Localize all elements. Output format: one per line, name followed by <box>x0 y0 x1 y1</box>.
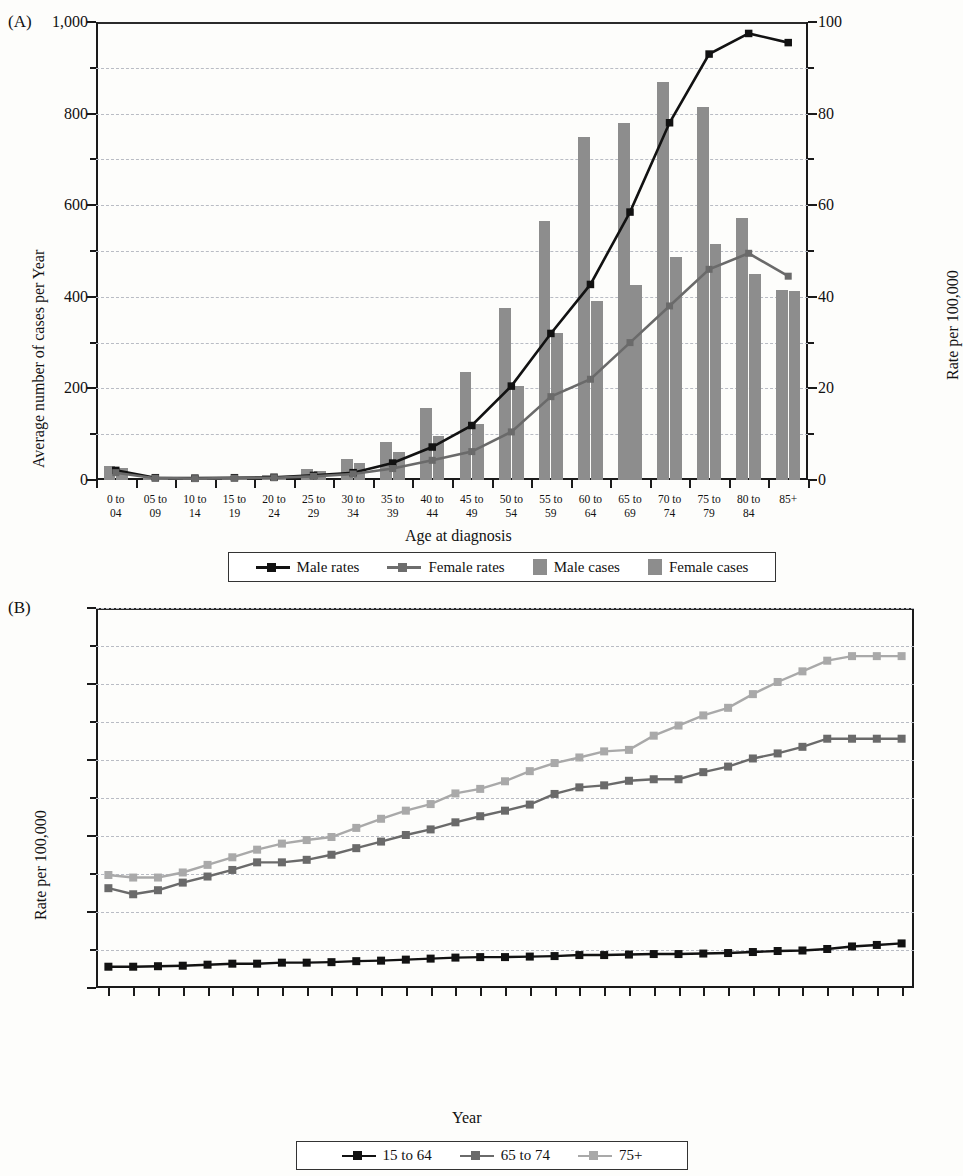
x-tick <box>902 988 904 996</box>
panel-b-y-title: Rate per 100,000 <box>32 810 50 920</box>
x-tick <box>492 480 494 488</box>
y-right-ticklabel: 0 <box>818 471 826 489</box>
y-tick <box>90 873 96 875</box>
x-ticklabel: 75 to79 <box>697 492 720 521</box>
x-tick <box>175 480 177 488</box>
panel-b-tag: (B) <box>8 598 31 618</box>
y-tick-left <box>87 21 96 23</box>
x-tick <box>571 480 573 488</box>
y-tick <box>90 721 96 723</box>
panel-b-plot-area <box>96 608 914 988</box>
x-ticklabel: 70 to74 <box>658 492 681 521</box>
x-tick <box>555 988 557 996</box>
x-ticklabel: 50 to54 <box>500 492 523 521</box>
y-tick-right <box>808 67 814 69</box>
x-tick <box>768 480 770 488</box>
y-left-ticklabel: 0 <box>26 471 88 489</box>
panel-b-legend: 15 to 6465 to 7475+ <box>296 1141 688 1170</box>
x-ticklabel: 20 to24 <box>262 492 285 521</box>
x-tick <box>381 988 383 996</box>
x-tick <box>877 988 879 996</box>
y-tick-right <box>808 158 814 160</box>
x-ticklabel: 30 to34 <box>341 492 364 521</box>
panel-a-y-left-title: Average number of cases per Year <box>30 250 48 468</box>
y-tick-left <box>87 479 96 481</box>
x-tick <box>331 988 333 996</box>
x-tick <box>356 988 358 996</box>
y-tick-left <box>90 250 96 252</box>
y-tick-right <box>808 433 814 435</box>
x-tick <box>753 988 755 996</box>
x-tick <box>579 988 581 996</box>
y-right-ticklabel: 80 <box>818 105 834 123</box>
legend-item-0: 15 to 64 <box>342 1147 432 1164</box>
legend-label: Male cases <box>554 559 620 576</box>
y-left-ticklabel: 200 <box>26 379 88 397</box>
legend-label: Male rates <box>297 559 360 576</box>
legend-marker <box>398 563 407 572</box>
x-tick <box>808 480 810 488</box>
x-ticklabel: 60 to64 <box>579 492 602 521</box>
y-tick <box>87 835 96 837</box>
x-tick <box>505 988 507 996</box>
y-tick-right <box>808 296 817 298</box>
x-tick <box>610 480 612 488</box>
y-tick <box>87 759 96 761</box>
y-tick <box>90 797 96 799</box>
y-tick <box>87 987 96 989</box>
x-tick <box>802 988 804 996</box>
y-left-ticklabel: 1,000 <box>26 13 88 31</box>
legend-item-0: Male rates <box>256 559 360 576</box>
legend-marker <box>353 1151 362 1160</box>
x-tick <box>307 988 309 996</box>
x-tick <box>452 480 454 488</box>
y-tick-left <box>87 113 96 115</box>
y-tick-right <box>808 113 817 115</box>
legend-line-glyph <box>342 1150 376 1162</box>
legend-label: Female cases <box>669 559 749 576</box>
plot-a-lines <box>96 22 808 480</box>
panel-b: (B) Rate per 100,000 Year 01530456075 19… <box>0 590 963 1176</box>
x-tick <box>431 988 433 996</box>
y-tick-right <box>808 342 814 344</box>
x-tick <box>455 988 457 996</box>
legend-label: 75+ <box>619 1147 642 1164</box>
y-tick-left <box>87 387 96 389</box>
legend-item-2: Male cases <box>533 559 620 576</box>
x-tick <box>650 480 652 488</box>
figure-root: (A) Average number of cases per Year Rat… <box>0 0 963 1176</box>
x-tick <box>333 480 335 488</box>
legend-line-glyph <box>256 561 290 573</box>
legend-label: Female rates <box>428 559 504 576</box>
x-tick <box>158 988 160 996</box>
x-ticklabel: 40 to44 <box>421 492 444 521</box>
x-tick <box>294 480 296 488</box>
x-tick <box>406 988 408 996</box>
panel-a: (A) Average number of cases per Year Rat… <box>0 0 963 590</box>
x-tick <box>703 988 705 996</box>
panel-a-x-title: Age at diagnosis <box>405 527 512 545</box>
x-tick <box>208 988 210 996</box>
x-tick <box>604 988 606 996</box>
x-tick <box>96 480 98 488</box>
x-ticklabel: 65 to69 <box>618 492 641 521</box>
y-tick <box>87 607 96 609</box>
y-tick-left <box>90 158 96 160</box>
y-tick <box>90 645 96 647</box>
y-left-ticklabel: 800 <box>26 105 88 123</box>
y-tick-left <box>87 296 96 298</box>
x-tick <box>282 988 284 996</box>
legend-item-3: Female cases <box>648 559 749 576</box>
x-tick <box>827 988 829 996</box>
legend-swatch <box>533 559 547 575</box>
x-tick <box>654 988 656 996</box>
legend-line-glyph <box>387 561 421 573</box>
x-tick <box>530 988 532 996</box>
x-tick <box>133 988 135 996</box>
x-ticklabel: 55 to59 <box>539 492 562 521</box>
legend-marker <box>267 563 276 572</box>
x-tick <box>480 988 482 996</box>
y-tick <box>87 911 96 913</box>
x-ticklabel: 35 to39 <box>381 492 404 521</box>
panel-b-x-title: Year <box>452 1109 481 1127</box>
